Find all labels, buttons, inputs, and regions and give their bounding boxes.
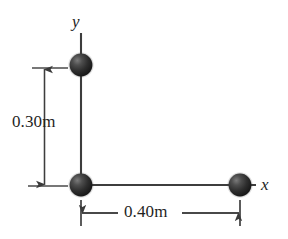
horizontal-dimension-label: 0.40m: [124, 203, 167, 220]
sphere-group: [68, 52, 253, 198]
vertical-dimension-label: 0.30m: [12, 113, 55, 130]
sphere-top: [70, 54, 93, 77]
x-axis-label: x: [261, 176, 269, 193]
sphere-origin: [70, 174, 93, 197]
axis-lines: [80, 33, 256, 186]
sphere-right: [229, 174, 252, 197]
y-axis-label: y: [72, 13, 80, 30]
physics-diagram-figure: y x 0.30m 0.40m: [0, 0, 288, 239]
